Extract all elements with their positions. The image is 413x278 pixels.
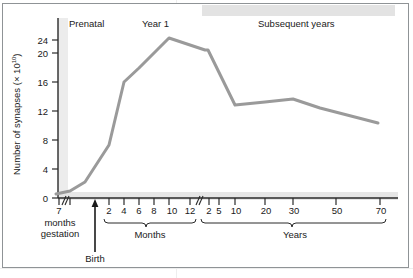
brace-years bbox=[201, 219, 386, 227]
section-label-prenatal: Prenatal bbox=[69, 18, 104, 29]
x-tick-labels-years: 2 5 10 20 30 50 70 bbox=[206, 205, 386, 216]
x-tick-label-year: 50 bbox=[332, 205, 343, 216]
x-tick-label-month: 4 bbox=[121, 205, 126, 216]
x-tick-label-month: 2 bbox=[106, 205, 111, 216]
y-axis-ticks bbox=[52, 40, 58, 198]
birth-arrow-icon bbox=[92, 199, 99, 252]
y-axis-title: Number of synapses (× 1010) bbox=[11, 53, 22, 175]
brace-months bbox=[104, 219, 196, 227]
birth-annotation-label: Birth bbox=[85, 253, 105, 264]
x-tick-label-year: 2 bbox=[206, 205, 211, 216]
x-tick-label-month: 12 bbox=[185, 205, 196, 216]
x-group-label-gestation-line1: months bbox=[44, 217, 75, 228]
y-axis-tick-labels: 0 4 8 12 16 20 24 bbox=[37, 35, 48, 204]
y-axis-title-text: Number of synapses (× 10 bbox=[11, 63, 22, 175]
y-tick-label: 4 bbox=[43, 164, 48, 175]
section-label-year-1: Year 1 bbox=[142, 18, 169, 29]
x-tick-label-year: 30 bbox=[289, 205, 300, 216]
x-tick-label-month: 6 bbox=[136, 205, 141, 216]
synapse-density-line bbox=[56, 38, 378, 194]
x-tick-label-year: 5 bbox=[216, 205, 221, 216]
y-axis-title-suffix: ) bbox=[11, 53, 22, 56]
x-group-label-months: Months bbox=[134, 229, 165, 240]
x-group-label-gestation-line2: gestation bbox=[41, 228, 80, 239]
x-tick-label-month: 10 bbox=[167, 205, 178, 216]
synapse-density-chart: 0 4 8 12 16 20 24 Number of synapses (× … bbox=[0, 0, 413, 278]
x-tick-label-year: 70 bbox=[376, 205, 387, 216]
y-tick-label: 0 bbox=[43, 193, 48, 204]
prenatal-shaded-band bbox=[58, 18, 68, 198]
figure-container: 0 4 8 12 16 20 24 Number of synapses (× … bbox=[0, 0, 413, 278]
x-tick-labels-months: 2 4 6 8 10 12 bbox=[106, 205, 195, 216]
x-tick-label-year: 10 bbox=[231, 205, 242, 216]
y-tick-label: 20 bbox=[37, 48, 48, 59]
svg-text:Number of synapses (× 1010): Number of synapses (× 1010) bbox=[11, 53, 22, 175]
x-tick-label-year: 20 bbox=[261, 205, 272, 216]
x-tick-label-month: 8 bbox=[151, 205, 156, 216]
x-tick-label-prenatal: 7 bbox=[56, 205, 61, 216]
y-tick-label: 12 bbox=[37, 106, 48, 117]
section-label-subsequent-years: Subsequent years bbox=[258, 18, 335, 29]
x-group-label-years: Years bbox=[283, 229, 307, 240]
y-tick-label: 24 bbox=[37, 35, 48, 46]
y-tick-label: 8 bbox=[43, 135, 48, 146]
y-tick-label: 16 bbox=[37, 77, 48, 88]
